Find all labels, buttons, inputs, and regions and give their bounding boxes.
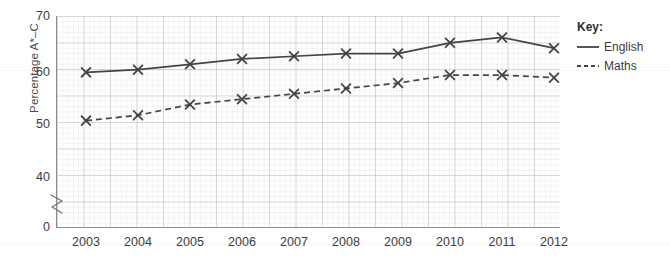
x-tick-2006: 2006 bbox=[215, 236, 269, 249]
series-english bbox=[82, 33, 559, 77]
x-tick-2011: 2011 bbox=[475, 236, 529, 249]
line-chart: Percentage A*–C 70 60 50 40 0 bbox=[0, 0, 670, 264]
x-tick-2004: 2004 bbox=[111, 236, 165, 249]
x-tick-2005: 2005 bbox=[163, 236, 217, 249]
legend-solid-line-icon bbox=[577, 42, 599, 52]
series-line-maths bbox=[86, 75, 554, 121]
legend-label-maths: Maths bbox=[604, 59, 637, 73]
y-tick-60: 60 bbox=[24, 66, 50, 79]
x-tick-2003: 2003 bbox=[59, 236, 113, 249]
x-tick-2007: 2007 bbox=[267, 236, 321, 249]
y-tick-50: 50 bbox=[24, 118, 50, 131]
y-tick-40: 40 bbox=[24, 171, 50, 184]
plot-area bbox=[57, 16, 560, 228]
x-axis-line bbox=[56, 227, 560, 228]
y-axis-tick-labels: 70 60 50 40 0 bbox=[24, 0, 50, 264]
legend-item-maths: Maths bbox=[577, 59, 669, 73]
data-point-maths-2012 bbox=[550, 73, 559, 82]
x-tick-2008: 2008 bbox=[319, 236, 373, 249]
y-axis-break-icon bbox=[48, 192, 68, 218]
x-tick-2012: 2012 bbox=[527, 236, 581, 249]
legend-item-english: English bbox=[577, 40, 669, 54]
y-tick-0: 0 bbox=[24, 221, 50, 234]
legend-title: Key: bbox=[577, 20, 669, 34]
series-maths bbox=[82, 71, 559, 125]
series-line-english bbox=[86, 37, 554, 72]
x-tick-2010: 2010 bbox=[423, 236, 477, 249]
x-tick-2009: 2009 bbox=[371, 236, 425, 249]
data-series-layer bbox=[57, 16, 560, 228]
legend-label-english: English bbox=[604, 40, 643, 54]
y-tick-70: 70 bbox=[24, 10, 50, 23]
legend: Key: English Maths bbox=[577, 20, 669, 78]
legend-dashed-line-icon bbox=[577, 61, 599, 71]
